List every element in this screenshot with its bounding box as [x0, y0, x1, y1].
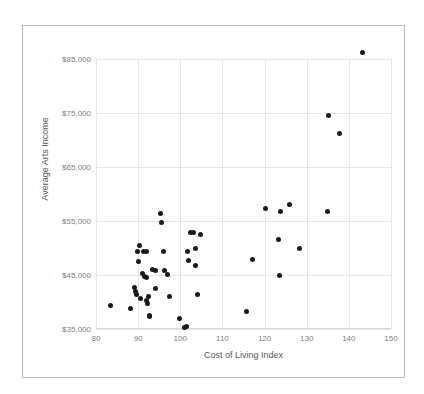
gridline-vertical	[307, 59, 308, 329]
scatter-point	[158, 211, 163, 216]
scatter-point	[136, 259, 141, 264]
y-axis-tick-label: $45,000	[62, 271, 91, 280]
scatter-point	[326, 113, 331, 118]
gridline-vertical	[138, 59, 139, 329]
scatter-point	[184, 324, 189, 329]
scatter-point	[146, 294, 151, 299]
plot-area	[96, 59, 391, 329]
scatter-point	[147, 314, 152, 319]
gridline-horizontal	[96, 113, 391, 114]
scatter-point	[195, 292, 200, 297]
y-axis-tick-label: $55,000	[62, 217, 91, 226]
y-axis-tick-label: $75,000	[62, 109, 91, 118]
gridline-horizontal	[96, 221, 391, 222]
x-axis-tick-label: 90	[134, 334, 143, 343]
scatter-point	[185, 249, 190, 254]
scatter-point	[138, 296, 143, 301]
gridline-horizontal	[96, 329, 391, 330]
scatter-point	[135, 249, 140, 254]
x-axis-tick-label: 150	[384, 334, 397, 343]
gridline-vertical	[96, 59, 97, 329]
gridline-vertical	[349, 59, 350, 329]
x-axis-tick-label: 130	[300, 334, 313, 343]
scatter-point	[337, 131, 342, 136]
x-axis-tick-label: 120	[258, 334, 271, 343]
y-axis-tick-label: $35,000	[62, 325, 91, 334]
scatter-point	[137, 243, 142, 248]
scatter-point	[244, 309, 249, 314]
scatter-point	[360, 50, 365, 55]
x-axis-tick-label: 110	[216, 334, 229, 343]
scatter-point	[144, 275, 149, 280]
scatter-point	[277, 273, 282, 278]
scatter-point	[108, 303, 113, 308]
scatter-point	[153, 286, 158, 291]
scatter-point	[167, 294, 172, 299]
gridline-vertical	[265, 59, 266, 329]
x-axis-title: Cost of Living Index	[96, 350, 391, 360]
gridline-horizontal	[96, 59, 391, 60]
scatter-point	[263, 206, 268, 211]
scatter-point	[287, 202, 292, 207]
scatter-point	[153, 268, 158, 273]
scatter-point	[276, 237, 281, 242]
scatter-point	[191, 230, 196, 235]
scatter-point	[193, 246, 198, 251]
scatter-point	[198, 232, 203, 237]
y-axis-tick-labels: $35,000$45,000$55,000$65,000$75,000$85,0…	[23, 59, 91, 329]
scatter-point	[128, 306, 133, 311]
gridline-vertical	[222, 59, 223, 329]
scatter-point	[161, 249, 166, 254]
scatter-point	[250, 257, 255, 262]
scatter-point	[193, 263, 198, 268]
chart-frame: $35,000$45,000$55,000$65,000$75,000$85,0…	[22, 25, 405, 378]
x-axis-tick-labels: 8090100110120130140150	[96, 334, 391, 348]
scatter-point	[144, 249, 149, 254]
gridline-vertical	[391, 59, 392, 329]
scatter-point	[145, 301, 150, 306]
x-axis-tick-label: 80	[92, 334, 101, 343]
x-axis-tick-label: 140	[342, 334, 355, 343]
y-axis-tick-label: $85,000	[62, 55, 91, 64]
scatter-point	[297, 246, 302, 251]
scatter-point	[159, 220, 164, 225]
scatter-point	[278, 209, 283, 214]
y-axis-title: Average Arts Income	[40, 69, 50, 249]
scatter-point	[165, 272, 170, 277]
gridline-horizontal	[96, 167, 391, 168]
y-axis-tick-label: $65,000	[62, 163, 91, 172]
gridline-vertical	[180, 59, 181, 329]
scatter-point	[186, 258, 191, 263]
scatter-point	[325, 209, 330, 214]
x-axis-tick-label: 100	[174, 334, 187, 343]
